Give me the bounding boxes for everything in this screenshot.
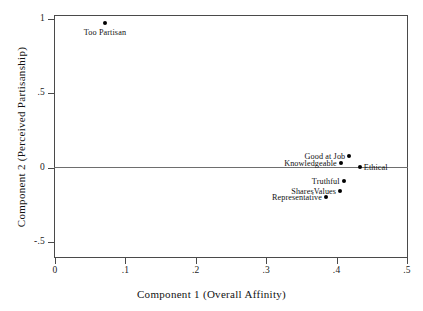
y-axis-tick [48, 93, 54, 94]
zero-reference-line [54, 167, 408, 168]
scatter-plot-figure: 1.50-.5 0.1.2.3.4.5 Too PartisanGood at … [0, 0, 423, 311]
x-axis-tick [196, 258, 197, 264]
y-axis-tick [48, 19, 54, 20]
plot-area [54, 15, 408, 258]
data-point-marker [324, 195, 328, 199]
y-axis-tick [48, 242, 54, 243]
x-axis-tick [337, 258, 338, 264]
data-point-label: Too Partisan [84, 28, 126, 37]
data-point-marker [338, 189, 342, 193]
x-axis-tick-label: .4 [322, 265, 352, 275]
data-point-marker [342, 179, 346, 183]
data-point-label: Truthful [312, 177, 340, 186]
x-axis-tick [55, 258, 56, 264]
y-axis-tick [48, 168, 54, 169]
x-axis-tick [266, 258, 267, 264]
data-point-marker [339, 161, 343, 165]
x-axis-tick-label: .1 [110, 265, 140, 275]
x-axis-tick [125, 258, 126, 264]
x-axis-tick-label: .2 [181, 265, 211, 275]
data-point-label: Ethical [364, 162, 388, 171]
x-axis-tick-label: .3 [251, 265, 281, 275]
x-axis-tick-label: 0 [40, 265, 70, 275]
data-point-marker [358, 165, 362, 169]
data-point-label: Representative [272, 192, 322, 201]
y-axis-title: Component 2 (Perceived Partisanship) [15, 17, 27, 257]
x-axis-title: Component 1 (Overall Affinity) [0, 288, 423, 300]
data-point-label: Knowledgeable [284, 159, 337, 168]
x-axis-tick [407, 258, 408, 264]
x-axis-tick-label: .5 [392, 265, 422, 275]
